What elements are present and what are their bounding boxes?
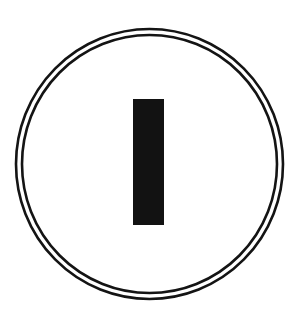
letter-i-stem	[133, 99, 164, 225]
symbol-canvas: Circled letter I A bold black letter I i…	[0, 0, 301, 325]
circled-letter-icon	[0, 0, 301, 325]
